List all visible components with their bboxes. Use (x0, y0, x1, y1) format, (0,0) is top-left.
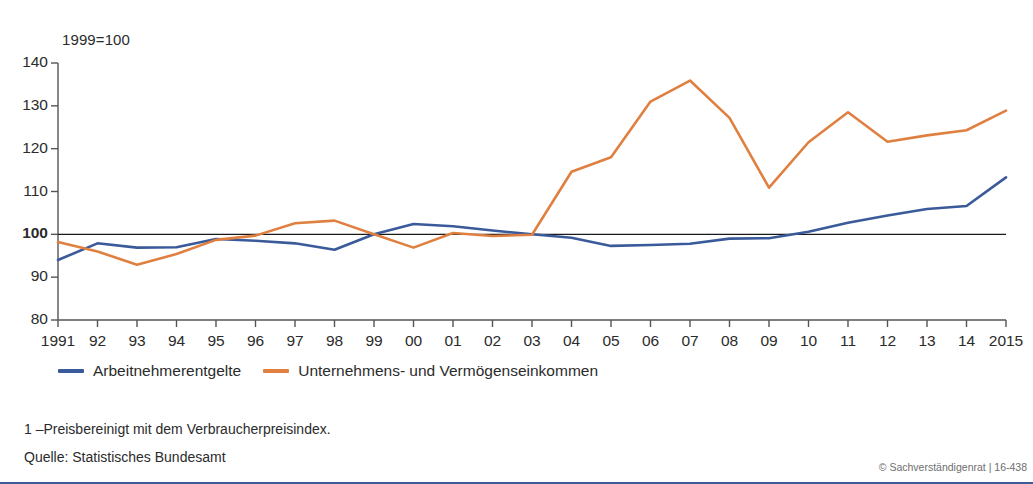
x-tick-label: 07 (681, 332, 698, 350)
y-tick-label: 80 (8, 310, 48, 328)
x-tick-label: 93 (128, 332, 145, 350)
y-tick-label: 100 (8, 224, 48, 242)
x-tick-label: 03 (523, 332, 540, 350)
legend-label: Unternehmens- und Vermögenseinkommen (298, 362, 598, 380)
y-tick-label: 140 (8, 53, 48, 71)
plot-area: 1999=100 8090100110120130140 19919293949… (0, 0, 1033, 484)
x-tick-label: 98 (326, 332, 343, 350)
legend-label: Arbeitnehmerentgelte (93, 362, 241, 380)
legend-item[interactable]: Arbeitnehmerentgelte (58, 362, 241, 380)
x-tick-label: 97 (286, 332, 303, 350)
x-tick-label: 06 (642, 332, 659, 350)
x-tick-label: 09 (760, 332, 777, 350)
x-tick-label: 11 (840, 332, 856, 350)
x-tick-label: 99 (365, 332, 382, 350)
legend-swatch-icon (263, 369, 289, 373)
x-tick-label: 96 (247, 332, 264, 350)
y-tick-label: 90 (8, 267, 48, 285)
legend-item[interactable]: Unternehmens- und Vermögenseinkommen (263, 362, 598, 380)
series-lines (58, 81, 1006, 265)
x-tick-label: 2015 (989, 332, 1023, 350)
x-tick-label: 10 (800, 332, 817, 350)
x-tick-label: 12 (879, 332, 896, 350)
x-tick-label: 92 (89, 332, 106, 350)
x-tick-label: 14 (958, 332, 975, 350)
axis-ticks (51, 63, 1006, 327)
x-tick-label: 95 (207, 332, 224, 350)
y-tick-label: 120 (8, 139, 48, 157)
y-tick-label: 110 (8, 182, 48, 200)
x-tick-label: 13 (918, 332, 935, 350)
copyright-text: © Sachverständigenrat | 16-438 (879, 461, 1027, 473)
axis-lines (58, 63, 1006, 320)
legend-swatch-icon (58, 369, 84, 373)
source-text: Quelle: Statistisches Bundesamt (24, 449, 226, 465)
y-tick-label: 130 (8, 96, 48, 114)
x-tick-label: 05 (602, 332, 619, 350)
chart-figure: 1999=100 8090100110120130140 19919293949… (0, 0, 1033, 484)
x-tick-label: 94 (168, 332, 185, 350)
x-tick-label: 00 (405, 332, 422, 350)
chart-legend: ArbeitnehmerentgelteUnternehmens- und Ve… (58, 362, 598, 380)
x-tick-label: 1991 (41, 332, 75, 350)
series-line-1 (58, 177, 1006, 260)
x-tick-label: 02 (484, 332, 501, 350)
chart-canvas (0, 0, 1033, 484)
series-line-2 (58, 81, 1006, 265)
x-tick-label: 01 (444, 332, 461, 350)
x-tick-label: 08 (721, 332, 738, 350)
x-tick-label: 04 (563, 332, 580, 350)
footnote-text: 1 –Preisbereinigt mit dem Verbraucherpre… (24, 421, 331, 437)
